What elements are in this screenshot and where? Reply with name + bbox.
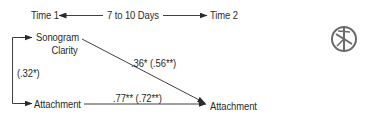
node-sonogram-clarity: Sonogram Clarity [33,31,83,55]
node-attachment-time2: Attachment [210,100,257,112]
coef-attachment-stability: .77** (.72**) [113,92,162,104]
node-sonogram-line2: Clarity [42,44,87,56]
node-attachment-time1: Attachment [34,98,81,110]
asterisk-circle-icon [329,24,359,54]
time2-label: Time 2 [210,9,238,21]
interval-label: 7 to 10 Days [107,9,159,21]
node-sonogram-line1: Sonogram [35,31,80,43]
time1-label: Time 1 [31,9,59,21]
coef-sonogram-to-attachment: .36* (.56**) [131,57,176,69]
coef-correlation-t1: (.32*) [17,67,40,79]
